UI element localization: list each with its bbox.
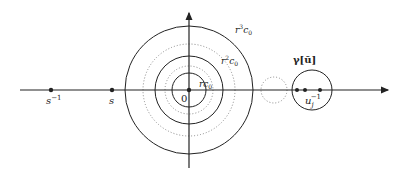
diagram-canvas: 0 s−1 s rc0 r2c0 r3c0 γ[ū] uj−1 xyxy=(0,0,404,178)
point-s xyxy=(110,88,114,92)
origin-point xyxy=(187,88,191,92)
label-gamma-u: γ[ū] xyxy=(293,54,316,65)
label-r3c0: r3c0 xyxy=(235,23,252,36)
point-s-inverse xyxy=(49,88,53,92)
label-s-inverse: s−1 xyxy=(46,94,61,106)
origin-label: 0 xyxy=(181,93,187,104)
gamma-point-3 xyxy=(318,88,322,92)
gamma-point-2 xyxy=(303,88,307,92)
label-u-j-inverse: uj−1 xyxy=(305,93,321,109)
label-r2c0: r2c0 xyxy=(221,54,238,67)
label-s: s xyxy=(109,95,114,106)
label-rc0: rc0 xyxy=(199,79,212,90)
gamma-point-1 xyxy=(295,88,299,92)
